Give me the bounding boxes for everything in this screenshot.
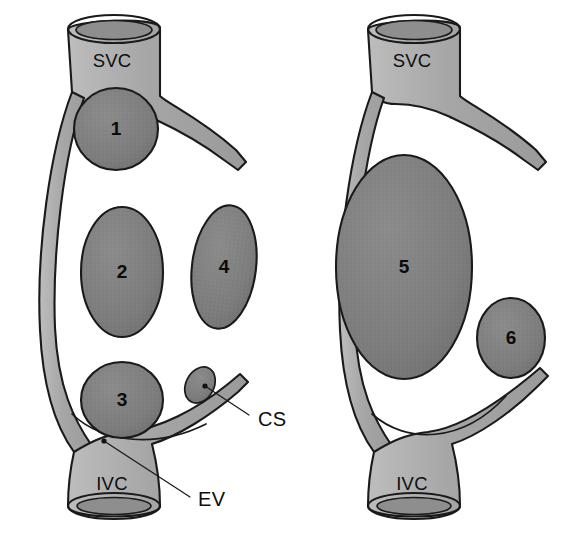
cs-label: CS — [258, 408, 286, 430]
svc-label-left: SVC — [93, 50, 132, 71]
mass-3: 3 — [81, 362, 163, 438]
mass-1: 1 — [74, 88, 158, 170]
mass-2-label: 2 — [117, 261, 128, 282]
left-atrial-view: 1 2 3 4 — [39, 15, 286, 519]
mass-4-label: 4 — [219, 256, 230, 277]
ivc-label-right: IVC — [396, 473, 427, 494]
mass-6-label: 6 — [506, 327, 517, 348]
ev-label: EV — [198, 488, 226, 510]
ivc-vessel-right — [368, 368, 548, 519]
mass-5-label: 5 — [399, 256, 410, 277]
svc-vessel-right — [368, 15, 546, 170]
right-atrial-view: 5 6 SVC IVC — [336, 15, 548, 519]
mass-5: 5 — [336, 155, 472, 379]
mass-6: 6 — [477, 298, 545, 378]
diagram-canvas: 1 2 3 4 — [0, 0, 568, 533]
mass-3-label: 3 — [117, 389, 128, 410]
mass-4: 4 — [185, 202, 264, 333]
mass-2: 2 — [81, 207, 163, 337]
ivc-label-left: IVC — [96, 473, 127, 494]
svc-label-right: SVC — [393, 50, 432, 71]
anatomical-figure: 1 2 3 4 — [0, 0, 568, 533]
mass-1-label: 1 — [111, 118, 122, 139]
